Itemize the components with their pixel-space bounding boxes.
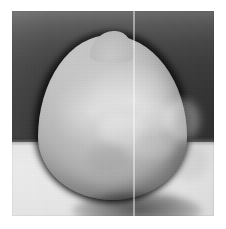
image-canvas: Grayscale photograph of a single rounded… (0, 0, 226, 229)
photo-plate-edge (12, 11, 214, 216)
specimen-photograph: Grayscale photograph of a single rounded… (12, 11, 214, 216)
